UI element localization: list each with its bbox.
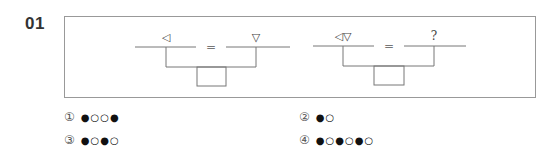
option-4[interactable]: ④ ●○●○●○ — [299, 133, 374, 147]
equation-2-equals: = — [384, 39, 394, 53]
option-1-marker: ① — [64, 110, 75, 124]
option-3[interactable]: ③ ●○●○ — [64, 133, 120, 147]
option-1-sequence: ●○○● — [81, 112, 120, 123]
equation-1-equals: = — [206, 40, 216, 54]
option-4-marker: ④ — [299, 133, 310, 147]
option-3-sequence: ●○●○ — [81, 135, 120, 146]
equation-2-left-symbol: ◁▽ — [335, 30, 352, 43]
option-2[interactable]: ② ●○ — [299, 110, 335, 124]
equation-1-right-symbol: ▽ — [252, 31, 261, 44]
option-3-marker: ③ — [64, 133, 75, 147]
option-4-sequence: ●○●○●○ — [316, 135, 374, 146]
equation-2-unknown: ? — [431, 29, 437, 43]
equation-1-left-symbol: ◁ — [162, 31, 171, 44]
option-2-sequence: ●○ — [316, 112, 335, 123]
option-1[interactable]: ① ●○○● — [64, 110, 120, 124]
option-2-marker: ② — [299, 110, 310, 124]
